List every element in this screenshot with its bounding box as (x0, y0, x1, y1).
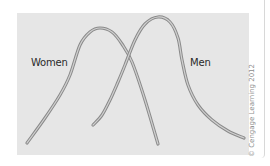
women-curve (27, 28, 158, 144)
curves-svg (0, 0, 270, 166)
series-layer (27, 17, 244, 144)
men-label: Men (190, 58, 211, 68)
copyright-credit: © Cengage Learning 2012 (249, 64, 256, 157)
page-edge-rule (261, 0, 265, 158)
women-label: Women (31, 58, 68, 68)
figure: Women Men © Cengage Learning 2012 (0, 0, 270, 166)
